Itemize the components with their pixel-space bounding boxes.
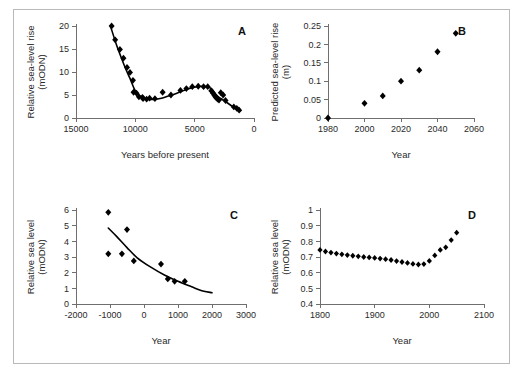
x-tick-label: 5000 (185, 124, 205, 134)
y-axis-title-units: (mODN) (280, 239, 291, 274)
x-tick-label: 15000 (63, 124, 88, 134)
panel-letter-c: C (230, 209, 238, 221)
y-axis-title-units: (mODN) (36, 54, 47, 89)
panel-b-plot: 00.050.10.150.20.2519802000202020402060Y… (262, 12, 508, 172)
data-point-marker (160, 89, 166, 96)
data-point-marker (378, 256, 383, 262)
y-tick-label: 0 (316, 113, 321, 123)
data-point-marker (438, 247, 443, 253)
y-tick-label: 0.6 (300, 268, 313, 278)
data-point-marker (124, 226, 130, 233)
x-tick-label: 10000 (123, 124, 148, 134)
y-tick-label: 0.9 (300, 221, 313, 231)
x-tick-label: 1000 (168, 310, 188, 320)
data-point-marker (158, 261, 164, 268)
x-tick-label: 2040 (427, 124, 447, 134)
x-tick-label: 3000 (236, 310, 256, 320)
fit-curve (111, 28, 240, 111)
x-axis-title: Years before present (121, 149, 209, 160)
data-point-marker (189, 83, 195, 90)
data-point-marker (345, 252, 350, 258)
y-axis-title: Predicted sea-level rise (269, 23, 280, 122)
panel-a-plot: 05101520150001000050000Years before pres… (18, 12, 264, 172)
x-tick-label: 2020 (391, 124, 411, 134)
data-point-marker (432, 253, 437, 259)
data-point-marker (131, 258, 137, 265)
data-point-marker (325, 115, 331, 122)
data-point-marker (416, 67, 422, 74)
data-point-marker (416, 262, 421, 268)
y-tick-label: 0.5 (300, 284, 313, 294)
figure-root: 05101520150001000050000Years before pres… (0, 0, 524, 374)
data-point-marker (112, 36, 118, 43)
x-tick-label: 2000 (419, 310, 439, 320)
axis-lines (76, 24, 254, 118)
y-tick-label: 0.15 (303, 58, 321, 68)
y-axis-title: Relative sea level (25, 220, 36, 294)
panel-c-plot: 0123456-2000-10000100020003000YearRelati… (18, 196, 264, 359)
y-tick-label: 4 (64, 237, 69, 247)
data-point-marker (339, 251, 344, 257)
data-point-marker (443, 244, 448, 250)
axis-lines (328, 24, 474, 118)
y-tick-label: 20 (59, 21, 69, 31)
panel-letter-b: B (458, 25, 466, 37)
x-tick-label: 0 (141, 310, 146, 320)
data-point-marker (421, 261, 426, 267)
data-point-marker (427, 258, 432, 264)
data-point-marker (105, 209, 111, 216)
panel-letter-d: D (468, 209, 476, 221)
data-point-marker (328, 250, 333, 256)
data-point-marker (405, 260, 410, 266)
data-point-marker (362, 100, 368, 107)
x-tick-label: 1900 (365, 310, 385, 320)
data-point-marker (152, 95, 158, 102)
panel-b: 00.050.10.150.20.2519802000202020402060Y… (262, 12, 508, 172)
data-point-marker (334, 251, 339, 257)
data-point-marker (435, 48, 441, 55)
data-point-marker (449, 237, 454, 243)
panel-d: 0.40.50.60.70.80.911800190020002100YearR… (262, 196, 508, 359)
x-tick-label: 2000 (202, 310, 222, 320)
y-tick-label: 3 (64, 252, 69, 262)
panel-letter-a: A (238, 25, 246, 37)
y-tick-label: 0.2 (308, 40, 321, 50)
y-axis-title-units: (m) (280, 65, 291, 79)
data-point-marker (109, 23, 115, 30)
data-point-marker (383, 256, 388, 262)
y-tick-label: 10 (59, 67, 69, 77)
y-tick-label: 0.05 (303, 95, 321, 105)
y-tick-label: 0 (64, 113, 69, 123)
panel-c: 0123456-2000-10000100020003000YearRelati… (18, 196, 264, 359)
y-tick-label: 0.8 (300, 237, 313, 247)
axis-lines (320, 208, 484, 304)
panel-d-plot: 0.40.50.60.70.80.911800190020002100YearR… (262, 196, 508, 359)
y-tick-label: 2 (64, 268, 69, 278)
data-point-marker (399, 259, 404, 265)
x-tick-label: -2000 (64, 310, 87, 320)
x-tick-label: -1000 (98, 310, 121, 320)
y-tick-label: 0.25 (303, 21, 321, 31)
data-point-marker (361, 254, 366, 260)
data-point-marker (410, 261, 415, 267)
y-tick-label: 1 (308, 205, 313, 215)
y-tick-label: 0 (64, 299, 69, 309)
y-axis-title-units: (mODN) (36, 239, 47, 274)
x-tick-label: 2000 (354, 124, 374, 134)
x-tick-label: 1800 (310, 310, 330, 320)
data-point-marker (454, 230, 459, 236)
x-tick-label: 1980 (318, 124, 338, 134)
y-tick-label: 0.4 (300, 299, 313, 309)
data-point-marker (394, 258, 399, 264)
data-point-marker (195, 83, 201, 90)
x-axis-title: Year (151, 335, 170, 346)
data-point-marker (380, 93, 386, 100)
data-point-marker (205, 83, 211, 90)
fit-curve (108, 228, 212, 293)
axis-lines (76, 208, 246, 304)
data-point-marker (398, 78, 404, 85)
y-tick-label: 15 (59, 44, 69, 54)
x-axis-title: Year (391, 149, 410, 160)
data-point-marker (317, 247, 322, 253)
data-point-marker (119, 250, 125, 257)
